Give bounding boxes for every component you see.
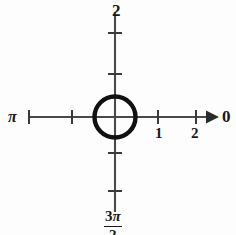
fraction-numerator-digit: 3 xyxy=(105,208,113,224)
x-tick-label-1: 1 xyxy=(155,126,163,141)
fraction-numerator: 3π xyxy=(104,209,122,227)
fraction-denominator: 2 xyxy=(104,227,122,235)
x-axis-arrowhead xyxy=(206,111,219,124)
y-axis-top-label: 2 xyxy=(112,2,121,19)
plot-canvas xyxy=(0,0,236,235)
y-axis-bottom-label: 3π 2 xyxy=(104,209,122,235)
axis-diagram-figure: 2 π 0 3π 2 1 2 xyxy=(0,0,236,235)
x-axis-right-label: 0 xyxy=(222,108,231,125)
x-axis-left-label: π xyxy=(8,109,17,125)
fraction-numerator-pi: π xyxy=(113,208,121,224)
x-tick-label-2: 2 xyxy=(191,126,199,141)
